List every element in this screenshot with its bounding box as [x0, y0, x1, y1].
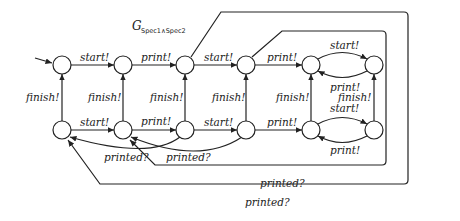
edge-label: print!: [141, 115, 171, 127]
state-node: [302, 121, 320, 139]
edge-label: start!: [330, 39, 359, 51]
edge-right-top-print: [318, 71, 367, 78]
edge-right-bottom-print: [318, 136, 367, 143]
state-node: [53, 56, 71, 74]
state-node: [237, 121, 255, 139]
state-node: [176, 56, 194, 74]
state-node: [365, 56, 383, 74]
edge-label: start!: [80, 116, 109, 128]
automaton-diagram: G Spec1∧Spec2 start! print! start! print…: [0, 0, 460, 221]
edge-label: printed?: [260, 177, 305, 189]
edge-label: start!: [204, 116, 233, 128]
initial-arrow: [35, 58, 52, 63]
edge-label: finish!: [87, 91, 122, 103]
state-node: [176, 121, 194, 139]
edge-label: printed?: [104, 151, 149, 163]
edge-label: finish!: [211, 91, 246, 103]
edge-label: print!: [267, 51, 297, 63]
diagram-title-subscript: Spec1∧Spec2: [141, 27, 186, 35]
state-node: [114, 56, 132, 74]
edge-label: finish!: [149, 91, 184, 103]
edge-label: finish!: [275, 91, 310, 103]
edge-label: start!: [330, 102, 359, 114]
state-node: [302, 56, 320, 74]
edge-right-bottom-start: [318, 118, 367, 125]
state-node: [114, 121, 132, 139]
edge-label: print!: [141, 51, 171, 63]
edge-right-top-start: [318, 53, 367, 60]
state-node: [365, 121, 383, 139]
state-node: [237, 56, 255, 74]
edge-label: finish!: [25, 91, 60, 103]
edge-label: printed?: [245, 196, 290, 208]
edge-label: print!: [330, 144, 360, 156]
edge-label: start!: [80, 51, 109, 63]
edge-label: printed?: [166, 151, 211, 163]
state-node: [53, 121, 71, 139]
edge-label: print!: [267, 116, 297, 128]
edge-label: start!: [204, 51, 233, 63]
